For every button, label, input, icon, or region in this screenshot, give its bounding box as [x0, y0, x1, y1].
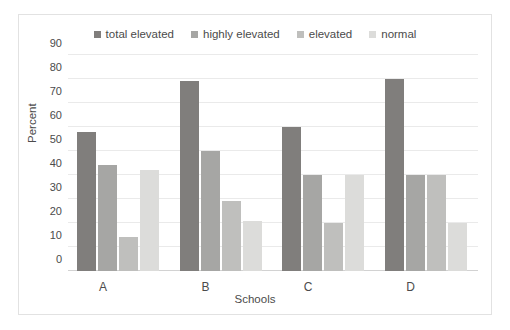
legend-label-highly-elevated: highly elevated	[203, 29, 280, 41]
y-axis-tick-label: 80	[50, 61, 62, 73]
legend-swatch-total-elevated	[94, 31, 101, 38]
y-axis-tick-label: 20	[50, 205, 62, 217]
legend-label-total-elevated: total elevated	[106, 29, 174, 41]
bar[interactable]	[243, 221, 262, 271]
bar[interactable]	[119, 237, 138, 271]
plot-area: 0102030405060708090 ABCD	[68, 55, 478, 271]
x-axis-tick-label: B	[171, 280, 241, 294]
bar-group: C	[273, 55, 376, 271]
bar[interactable]	[140, 170, 159, 271]
bar[interactable]	[427, 175, 446, 271]
bar[interactable]	[222, 201, 241, 271]
y-axis-tick-label: 40	[50, 157, 62, 169]
legend-swatch-elevated	[297, 31, 304, 38]
y-axis-tick-label: 90	[50, 37, 62, 49]
legend-label-elevated: elevated	[309, 29, 352, 41]
x-axis-title: Schools	[19, 293, 491, 305]
bar[interactable]	[180, 81, 199, 271]
y-axis-tick-label: 50	[50, 133, 62, 145]
legend-swatch-highly-elevated	[191, 31, 198, 38]
bar-group: B	[171, 55, 274, 271]
x-axis-tick-label: C	[273, 280, 343, 294]
legend-item-elevated: elevated	[297, 29, 352, 41]
bar[interactable]	[324, 223, 343, 271]
legend-item-highly-elevated: highly elevated	[191, 29, 280, 41]
x-axis-tick-label: D	[376, 280, 446, 294]
bar[interactable]	[303, 175, 322, 271]
legend-item-total-elevated: total elevated	[94, 29, 174, 41]
bar[interactable]	[448, 223, 467, 271]
bar[interactable]	[282, 127, 301, 271]
legend-swatch-normal	[369, 31, 376, 38]
bar[interactable]	[98, 165, 117, 271]
y-axis-tick-label: 10	[50, 229, 62, 241]
bar[interactable]	[385, 79, 404, 271]
bar[interactable]	[406, 175, 425, 271]
bar[interactable]	[345, 175, 364, 271]
y-axis-tick-label: 30	[50, 181, 62, 193]
x-axis-tick-label: A	[68, 280, 138, 294]
bar[interactable]	[201, 151, 220, 271]
bar-chart-figure: total elevated highly elevated elevated …	[18, 14, 492, 315]
y-axis-title: Percent	[26, 103, 38, 143]
y-axis-tick-label: 0	[56, 253, 62, 265]
y-axis-tick-label: 60	[50, 109, 62, 121]
chart-legend: total elevated highly elevated elevated …	[19, 29, 491, 41]
legend-item-normal: normal	[369, 29, 416, 41]
y-axis-tick-label: 70	[50, 85, 62, 97]
bar-groups: ABCD	[68, 55, 478, 271]
bar-group: D	[376, 55, 479, 271]
bar-group: A	[68, 55, 171, 271]
legend-label-normal: normal	[381, 29, 416, 41]
bar[interactable]	[77, 132, 96, 271]
